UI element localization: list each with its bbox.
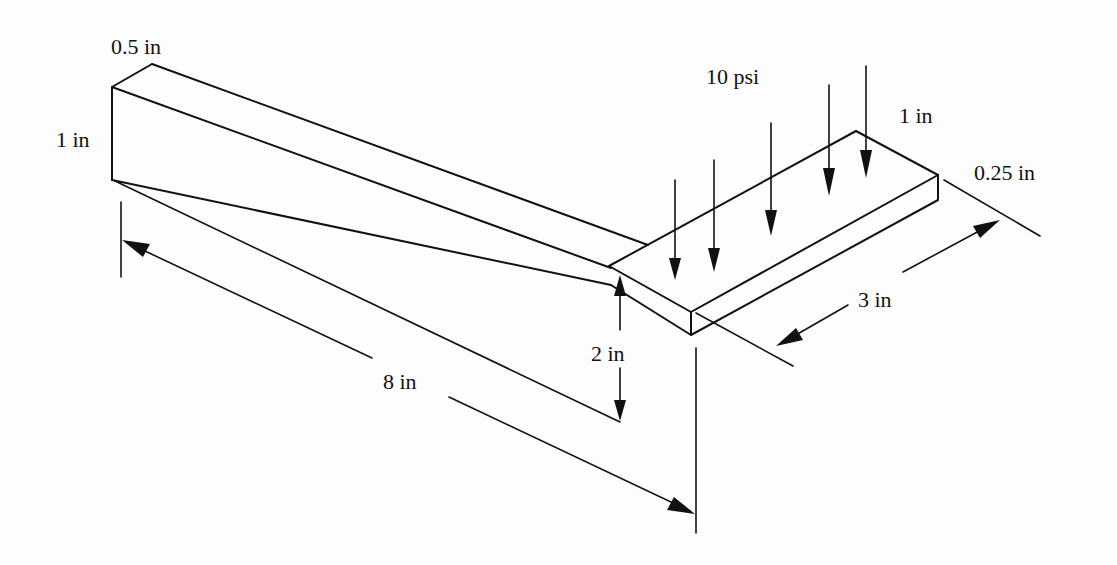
dimension-2in (115, 181, 626, 422)
arrow-head-icon (973, 220, 1000, 238)
load-arrow-icon (765, 210, 777, 236)
tapered-beam (112, 64, 691, 335)
arrow-head-icon (122, 240, 150, 257)
beam-front-top-edge (112, 87, 611, 268)
label-beam-end-height: 2 in (591, 341, 625, 366)
load-arrow-icon (708, 248, 720, 272)
load-arrow-icon (823, 168, 835, 196)
dimension-8in (121, 202, 696, 533)
label-beam-length: 8 in (383, 369, 417, 394)
extension-line (115, 181, 620, 422)
extension-line (696, 313, 793, 366)
beam-plate-drawing: 0.5 in 1 in 10 psi 1 in 0.25 in 3 in 8 i… (0, 0, 1117, 565)
plate-front-face (691, 175, 938, 335)
label-plate-thickness: 0.25 in (974, 160, 1035, 185)
diagram-canvas: 0.5 in 1 in 10 psi 1 in 0.25 in 3 in 8 i… (0, 0, 1117, 565)
label-pressure: 10 psi (706, 64, 759, 89)
extension-line (944, 180, 1040, 236)
dimension-3in (696, 180, 1040, 366)
label-beam-top-width: 0.5 in (111, 34, 161, 59)
beam-left-end-edges (112, 64, 152, 180)
arrow-head-icon (614, 275, 626, 296)
label-plate-length: 3 in (858, 287, 892, 312)
beam-bottom-edge (112, 180, 611, 285)
label-beam-left-height: 1 in (56, 127, 90, 152)
pressure-load-arrows (669, 66, 872, 280)
arrow-head-icon (614, 400, 626, 421)
beam-back-top-edge (152, 64, 648, 245)
arrow-head-icon (776, 328, 803, 346)
load-arrow-icon (860, 150, 872, 178)
label-plate-width: 1 in (899, 103, 933, 128)
arrow-head-icon (667, 497, 695, 514)
load-arrow-icon (669, 258, 681, 280)
